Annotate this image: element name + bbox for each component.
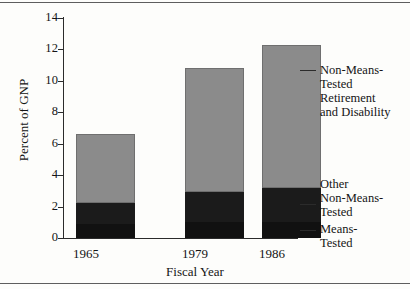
y-tick-label-8: 8 xyxy=(18,105,58,118)
legend-label-non-means-tested-retirement: Non-Means- Tested Retirement and Disabil… xyxy=(320,63,410,119)
legend-leader-means-tested xyxy=(300,230,316,231)
y-tick-label-4: 4 xyxy=(18,168,58,181)
y-tick-6 xyxy=(58,144,64,145)
y-tick-4 xyxy=(58,175,64,176)
x-tick-label-1979: 1979 xyxy=(155,247,235,260)
y-tick-label-12: 12 xyxy=(18,42,58,55)
bar-1965-segment-non-means-tested-retirement xyxy=(76,134,135,203)
y-tick-label-10: 10 xyxy=(18,74,58,87)
legend-leader-non-means-tested-retirement xyxy=(300,70,316,71)
y-tick-14 xyxy=(58,18,64,19)
bar-1986-segment-non-means-tested-retirement xyxy=(262,45,321,188)
y-tick-12 xyxy=(58,49,64,50)
legend-leader-other-non-means-tested xyxy=(300,204,316,205)
bar-1979-segment-means-tested xyxy=(185,222,244,238)
y-tick-label-0: 0 xyxy=(18,231,58,244)
page-rule-top xyxy=(0,2,410,3)
chart-figure: Percent of GNP 14 12 10 8 6 4 2 0 1965 1… xyxy=(0,0,410,289)
y-tick-label-14: 14 xyxy=(18,11,58,24)
x-tick-label-1965: 1965 xyxy=(46,247,126,260)
y-axis-line xyxy=(63,17,64,239)
page-rule-bottom xyxy=(0,283,410,284)
y-tick-2 xyxy=(58,207,64,208)
bar-1979-segment-other-non-means-tested xyxy=(185,192,244,222)
y-tick-label-6: 6 xyxy=(18,137,58,150)
bar-1965-segment-means-tested xyxy=(76,224,135,238)
x-axis-title: Fiscal Year xyxy=(140,264,250,280)
legend-label-means-tested: Means- Tested xyxy=(320,222,410,250)
legend-label-other-non-means-tested: Other Non-Means- Tested xyxy=(320,177,410,219)
y-tick-10 xyxy=(58,81,64,82)
bar-1965-segment-other-non-means-tested xyxy=(76,203,135,223)
y-tick-0 xyxy=(58,238,64,239)
x-tick-label-1986: 1986 xyxy=(232,247,312,260)
y-tick-label-2: 2 xyxy=(18,200,58,213)
x-axis-line xyxy=(63,238,298,239)
y-tick-8 xyxy=(58,112,64,113)
bar-1979-segment-non-means-tested-retirement xyxy=(185,68,244,192)
